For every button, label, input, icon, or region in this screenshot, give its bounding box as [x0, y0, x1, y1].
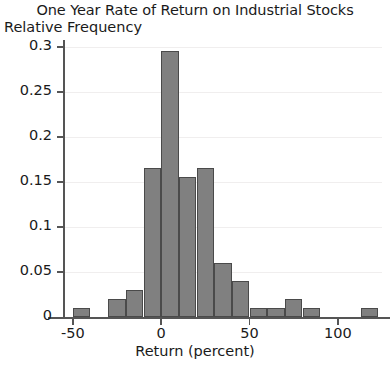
y-axis-tick-label: 0: [43, 307, 52, 323]
x-axis-tick-label: 100: [324, 325, 352, 341]
y-axis-tick-label: 0.25: [20, 82, 52, 98]
x-axis-tick: [160, 318, 162, 325]
x-axis-line: [48, 317, 390, 319]
y-axis-tick: [57, 181, 64, 183]
gridline: [64, 137, 382, 138]
histogram-bar: [267, 308, 285, 317]
histogram-bar: [285, 299, 303, 317]
y-axis-label: Relative Frequency: [4, 19, 142, 35]
y-axis-tick-label: 0.1: [29, 217, 52, 233]
y-axis-tick-label: 0.05: [20, 262, 52, 278]
x-axis-tick-label: 50: [240, 325, 258, 341]
y-axis-tick: [57, 136, 64, 138]
histogram-bar: [179, 177, 197, 317]
histogram-bar: [108, 299, 126, 317]
x-axis-tick: [72, 318, 74, 325]
y-axis-line: [63, 40, 65, 319]
plot-area: [64, 42, 382, 317]
y-axis-tick-label: 0.15: [20, 172, 52, 188]
x-axis-label: Return (percent): [0, 343, 390, 359]
x-axis-tick: [249, 318, 251, 325]
histogram-bar: [126, 290, 144, 317]
x-axis-tick: [337, 318, 339, 325]
gridline: [64, 92, 382, 93]
histogram-bar: [73, 308, 91, 317]
histogram-bar: [232, 281, 250, 317]
x-axis-tick-label: 0: [157, 325, 166, 341]
y-axis-tick: [57, 317, 64, 319]
histogram-bar: [161, 51, 179, 317]
y-axis-tick: [57, 271, 64, 273]
histogram-figure: One Year Rate of Return on Industrial St…: [0, 0, 390, 368]
y-axis-tick: [57, 91, 64, 93]
histogram-bar: [214, 263, 232, 317]
gridline: [64, 227, 382, 228]
chart-title: One Year Rate of Return on Industrial St…: [0, 2, 390, 18]
gridline: [64, 182, 382, 183]
histogram-bar: [361, 308, 379, 317]
y-axis-tick: [57, 46, 64, 48]
histogram-bar: [144, 168, 162, 317]
x-axis-tick-label: -50: [61, 325, 85, 341]
histogram-bar: [197, 168, 215, 317]
y-axis-tick: [57, 226, 64, 228]
histogram-bar: [250, 308, 268, 317]
y-axis-tick-label: 0.3: [29, 37, 52, 53]
y-axis-tick-label: 0.2: [29, 127, 52, 143]
gridline: [64, 47, 382, 48]
histogram-bar: [303, 308, 321, 317]
